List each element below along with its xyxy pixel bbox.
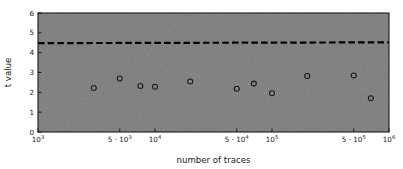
y-tick-label-1: 1	[29, 108, 34, 117]
y-tick-label-2: 2	[29, 88, 34, 97]
y-tick-label-4: 4	[29, 48, 34, 57]
y-axis-title: t value	[3, 58, 13, 88]
y-tick-label-3: 3	[29, 68, 34, 77]
plot-background-texture	[38, 13, 389, 132]
plot-area	[38, 13, 389, 132]
x-tick-label-5: 5 · 105	[342, 134, 366, 144]
chart-plot-svg: 0123456 1035 · 1031045 · 1041055 · 10510…	[0, 0, 403, 169]
y-tick-label-6: 6	[29, 9, 34, 18]
x-axis-title: number of traces	[177, 155, 251, 165]
chart-figure: 0123456 1035 · 1031045 · 1041055 · 10510…	[0, 0, 403, 169]
y-tick-label-5: 5	[29, 28, 34, 37]
x-tick-label-1: 5 · 103	[108, 134, 132, 144]
